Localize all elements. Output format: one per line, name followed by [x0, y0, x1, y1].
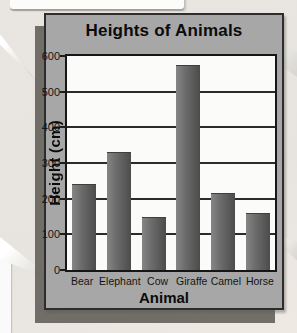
left-page-strip: [0, 252, 11, 333]
y-tick-mark-600: [60, 55, 66, 57]
bar-slot-horse: [240, 56, 275, 270]
category-slot-horse: Horse: [243, 275, 277, 287]
chart-title: Heights of Animals: [46, 21, 282, 41]
page-background: Heights of Animals Height (cm) 010020030…: [0, 0, 297, 333]
figure-panel: Heights of Animals Height (cm) 010020030…: [44, 13, 284, 310]
y-tick-mark-400: [60, 126, 66, 128]
category-slot-cow: Cow: [141, 275, 175, 287]
y-tick-label-200: 200: [42, 192, 60, 204]
x-axis-label: Animal: [46, 289, 282, 306]
y-tick-label-100: 100: [42, 228, 60, 240]
category-label-giraffe: Giraffe: [176, 275, 207, 287]
category-labels-row: BearElephantCowGiraffeCamelHorse: [65, 275, 277, 287]
category-slot-elephant: Elephant: [99, 275, 140, 287]
bar-giraffe: [176, 65, 200, 270]
y-tick-mark-300: [60, 162, 66, 164]
top-card-edge: [10, 0, 184, 9]
category-slot-camel: Camel: [209, 275, 243, 287]
bars-row: [67, 56, 275, 270]
plot-area: 0100200300400500600: [65, 54, 277, 272]
y-tick-label-300: 300: [42, 157, 60, 169]
bar-slot-elephant: [102, 56, 137, 270]
bar-slot-bear: [67, 56, 102, 270]
bar-slot-giraffe: [171, 56, 206, 270]
bar-slot-camel: [206, 56, 241, 270]
category-label-elephant: Elephant: [99, 275, 140, 287]
bar-elephant: [107, 152, 131, 270]
y-tick-label-0: 0: [54, 264, 60, 276]
y-tick-mark-0: [60, 269, 66, 271]
y-tick-mark-500: [60, 91, 66, 93]
y-tick-label-600: 600: [42, 50, 60, 62]
bar-cow: [142, 217, 166, 271]
y-tick-label-400: 400: [42, 121, 60, 133]
bar-slot-cow: [136, 56, 171, 270]
category-label-bear: Bear: [71, 275, 93, 287]
y-tick-mark-100: [60, 233, 66, 235]
category-slot-bear: Bear: [65, 275, 99, 287]
y-tick-mark-200: [60, 198, 66, 200]
bar-bear: [72, 184, 96, 270]
category-label-camel: Camel: [211, 275, 241, 287]
category-label-horse: Horse: [246, 275, 274, 287]
category-slot-giraffe: Giraffe: [175, 275, 209, 287]
y-tick-label-500: 500: [42, 85, 60, 97]
callout-pointer-top-left-icon: [0, 31, 38, 83]
category-label-cow: Cow: [147, 275, 168, 287]
bar-camel: [211, 193, 235, 270]
bar-horse: [246, 213, 270, 270]
